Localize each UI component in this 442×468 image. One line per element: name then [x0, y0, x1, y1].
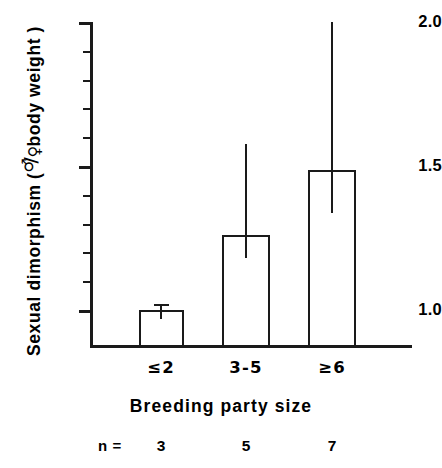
error-bar-line-1	[245, 144, 247, 258]
y-axis-title-prefix: Sexual dimorphism (	[24, 172, 45, 356]
x-axis-title: Breeding party size	[0, 396, 442, 417]
y-axis-line	[90, 22, 93, 348]
error-bar-line-2	[331, 22, 333, 213]
y-tick-major-0	[79, 310, 90, 313]
chart-figure: Sexual dimorphism ( ♂ / ♀ body weight ) …	[0, 0, 442, 468]
y-tick-minor-1.1	[83, 281, 90, 283]
y-tick-minor-1.3	[83, 224, 90, 226]
y-axis-title: Sexual dimorphism ( ♂ / ♀ body weight )	[17, 26, 51, 356]
female-symbol-icon: ♀	[25, 145, 44, 157]
sample-size-2: 7	[277, 437, 387, 455]
y-tick-minor-1.9	[83, 51, 90, 53]
y-tick-label-1.0: 1.0	[396, 300, 442, 319]
y-tick-minor-1.7	[83, 108, 90, 110]
y-axis-title-suffix: body weight )	[24, 26, 45, 147]
error-bar-line-0	[160, 304, 162, 319]
y-tick-label-2.0: 2.0	[396, 12, 442, 31]
y-tick-minor-1.8	[83, 80, 90, 82]
error-bar-cap-upper-0	[154, 304, 169, 306]
x-tick-label-2: ≥6	[277, 358, 387, 377]
sex-ratio-symbol: ♂ / ♀	[24, 147, 44, 173]
y-tick-minor-1.2	[83, 252, 90, 254]
sample-size-row: n = 3 5 7	[0, 437, 442, 461]
y-tick-major-2	[79, 22, 90, 25]
y-tick-label-1.5: 1.5	[396, 156, 442, 175]
y-tick-minor-1.4	[83, 195, 90, 197]
y-tick-major-1	[79, 166, 90, 169]
y-tick-minor-1.6	[83, 137, 90, 139]
slash-symbol: /	[21, 157, 41, 164]
